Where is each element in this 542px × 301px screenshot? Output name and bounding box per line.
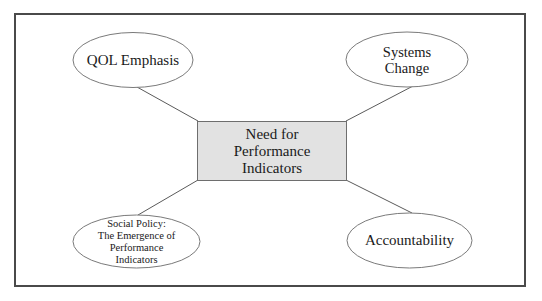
connector-accountability	[346, 180, 412, 213]
center-box	[198, 122, 347, 181]
connector-qol-emphasis	[137, 87, 198, 121]
ellipse-qol-emphasis	[73, 33, 193, 88]
ellipse-systems-change	[346, 32, 468, 87]
ellipse-social-policy	[73, 215, 200, 268]
ellipse-accountability	[347, 213, 472, 268]
connector-social-policy	[138, 180, 198, 215]
diagram-canvas	[0, 0, 542, 301]
connector-systems-change	[346, 86, 413, 121]
